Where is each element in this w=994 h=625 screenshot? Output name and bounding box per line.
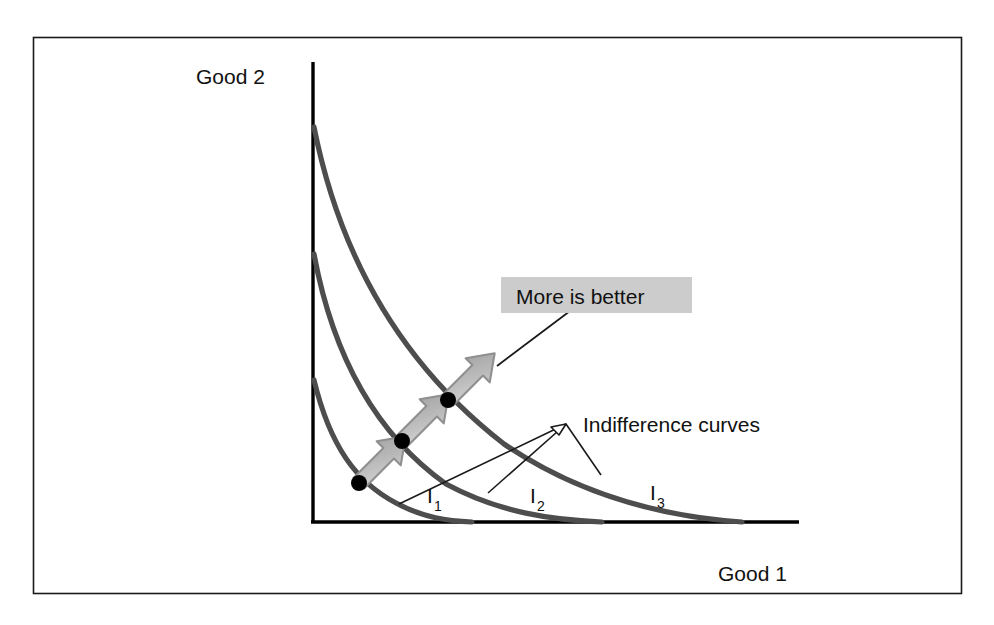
figure-frame <box>34 38 962 594</box>
indifference-curves-label: Indifference curves <box>583 413 760 436</box>
curve-label-i3-sub: 3 <box>657 495 665 511</box>
diagram-page: More is better Indifference curves I 1 I… <box>0 0 994 625</box>
curve-label-i3-base: I <box>650 481 656 504</box>
bundle-point-2 <box>394 433 410 449</box>
curve-label-i2-sub: 2 <box>537 498 545 514</box>
curve-label-i2-base: I <box>530 484 536 507</box>
indifference-curve-figure: More is better Indifference curves I 1 I… <box>0 0 994 625</box>
curve-label-i1-base: I <box>427 484 433 507</box>
bundle-point-1 <box>351 475 367 491</box>
x-axis-label: Good 1 <box>718 562 787 585</box>
bundle-point-3 <box>440 392 456 408</box>
y-axis-label: Good 2 <box>196 65 265 88</box>
curve-label-i1-sub: 1 <box>434 498 442 514</box>
more-is-better-label: More is better <box>516 285 644 308</box>
